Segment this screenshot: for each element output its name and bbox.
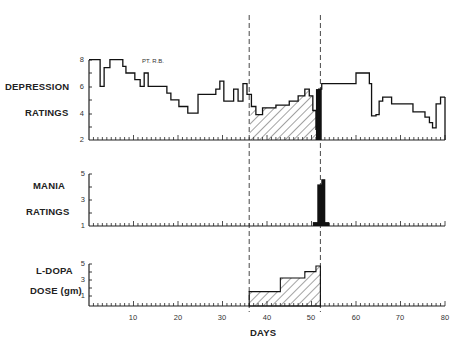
axes (89, 15, 445, 312)
chart-canvas (0, 0, 471, 358)
series (89, 60, 445, 306)
